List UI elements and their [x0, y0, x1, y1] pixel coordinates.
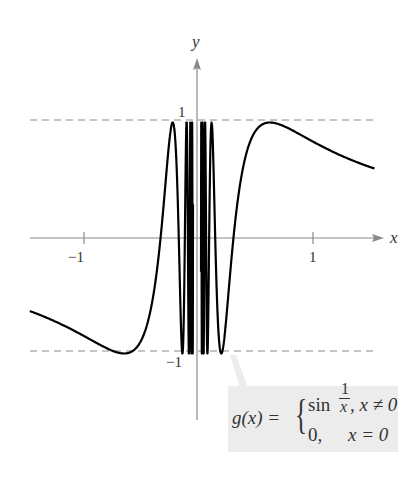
- formula-case1-numerator: 1: [341, 380, 349, 398]
- formula-annotation: g(x) = { sin 1 x , x ≠ 0 0, x = 0: [228, 386, 398, 452]
- callout-leader: [230, 355, 248, 388]
- formula-lhs: g(x) =: [232, 407, 280, 429]
- y-axis-label: y: [192, 33, 200, 50]
- x-tick-label-one: 1: [309, 250, 317, 265]
- formula-case1-denominator: x: [340, 398, 347, 416]
- formula-case1-func: sin: [308, 394, 330, 416]
- y-tick-label-neg-one: −1: [166, 355, 182, 370]
- formula-case1-condition: , x ≠ 0: [350, 394, 397, 416]
- formula-case2-value: 0,: [308, 424, 322, 446]
- x-tick-label-neg-one: −1: [68, 250, 84, 265]
- formula-brace: {: [295, 390, 307, 438]
- x-axis-label: x: [390, 229, 398, 246]
- y-tick-label-one: 1: [178, 105, 186, 120]
- formula-case2-condition: x = 0: [348, 424, 388, 446]
